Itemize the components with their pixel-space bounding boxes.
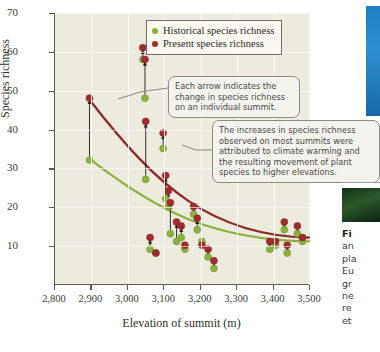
y-tick-mark <box>49 168 54 169</box>
gridline-horizontal <box>55 246 309 247</box>
figure-screenshot: Species richness Elevation of summit (m)… <box>0 0 380 352</box>
data-point-historical <box>142 95 149 102</box>
legend-swatch-present-icon <box>152 41 158 47</box>
callout-arrow-note: Each arrow indicates thechange in specie… <box>168 76 300 118</box>
callout-increase-note: The increases in species richnessobserve… <box>212 120 380 183</box>
y-tick-label: 20 <box>0 200 18 212</box>
data-point-present <box>142 56 149 63</box>
y-tick-label: 40 <box>0 123 18 135</box>
y-tick-label: 10 <box>0 239 18 251</box>
caption-line: pla <box>342 253 380 265</box>
data-point-historical <box>167 230 174 237</box>
legend-swatch-historical-icon <box>152 28 158 34</box>
page-blue-strip <box>366 6 380 116</box>
x-tick-mark <box>54 285 55 290</box>
x-axis-label: Elevation of summit (m) <box>54 316 309 331</box>
page-photo-thumbnail <box>342 188 380 222</box>
legend-item-historical: Historical species richness <box>152 24 274 37</box>
x-tick-mark <box>90 285 91 290</box>
data-point-present <box>147 234 154 241</box>
caption-divider <box>342 182 380 183</box>
callout-line: on an individual summit. <box>175 102 293 113</box>
callout-line: Each arrow indicates the <box>175 81 293 92</box>
y-tick-mark <box>49 207 54 208</box>
y-tick-mark <box>49 246 54 247</box>
data-point-present <box>178 222 185 229</box>
data-point-present <box>194 215 201 222</box>
callout-line: change in species richness <box>175 92 293 103</box>
data-point-historical <box>284 250 291 257</box>
y-tick-label: 30 <box>0 161 18 173</box>
x-tick-mark <box>273 285 274 290</box>
chart-legend: Historical species richness Present spec… <box>146 20 282 55</box>
data-point-present <box>299 234 306 241</box>
data-point-present <box>294 222 301 229</box>
caption-line: Eu <box>342 265 380 277</box>
caption-line: gr <box>342 278 380 290</box>
gridline-horizontal <box>55 207 309 208</box>
gridline-vertical <box>91 13 92 284</box>
x-tick-mark <box>163 285 164 290</box>
callout-line: the resulting movement of plant <box>219 157 373 168</box>
y-tick-label: 50 <box>0 84 18 96</box>
caption-line: ne <box>342 290 380 302</box>
legend-label-present: Present species richness <box>163 37 264 50</box>
callout-line: observed on most summits were <box>219 136 373 147</box>
data-point-present <box>142 118 149 125</box>
caption-line: re <box>342 302 380 314</box>
x-tick-mark <box>200 285 201 290</box>
x-tick-label: 3,500 <box>283 293 335 304</box>
y-tick-mark <box>49 52 54 53</box>
data-point-historical <box>142 176 149 183</box>
data-point-present <box>152 250 159 257</box>
data-point-historical <box>160 145 167 152</box>
callout-line: species to higher elevations. <box>219 167 373 178</box>
data-point-present <box>160 130 167 137</box>
caption-line: et <box>342 315 380 327</box>
y-tick-mark <box>49 13 54 14</box>
figure-caption: FianplaEugrnereet <box>342 228 380 352</box>
caption-line: an <box>342 240 380 252</box>
legend-item-present: Present species richness <box>152 37 274 50</box>
callout-line: attributed to climate warming and <box>219 146 373 157</box>
data-point-historical <box>281 226 288 233</box>
legend-label-historical: Historical species richness <box>163 24 274 37</box>
y-tick-label: 60 <box>0 45 18 57</box>
y-tick-mark <box>49 91 54 92</box>
figure-panel: Species richness Elevation of summit (m)… <box>0 0 330 340</box>
data-point-present <box>167 199 174 206</box>
x-tick-mark <box>309 285 310 290</box>
data-point-historical <box>210 265 217 272</box>
data-point-present <box>162 172 169 179</box>
caption-lead: Fi <box>342 228 380 240</box>
y-tick-label: 70 <box>0 6 18 18</box>
data-point-present <box>210 257 217 264</box>
data-point-present <box>281 219 288 226</box>
data-point-present <box>165 188 172 195</box>
data-point-historical <box>194 226 201 233</box>
y-tick-mark <box>49 130 54 131</box>
x-tick-mark <box>236 285 237 290</box>
x-tick-mark <box>127 285 128 290</box>
callout-line: The increases in species richness <box>219 125 373 136</box>
gridline-horizontal <box>55 13 309 14</box>
gridline-vertical <box>128 13 129 284</box>
data-point-historical <box>178 234 185 241</box>
